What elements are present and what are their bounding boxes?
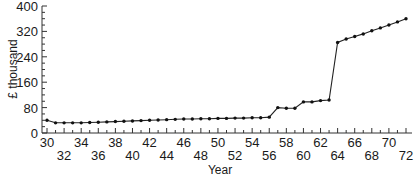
x-tick-label: 46 <box>177 135 191 150</box>
data-point <box>225 117 228 120</box>
data-point <box>344 37 347 40</box>
data-point <box>319 99 322 102</box>
data-point <box>302 100 305 103</box>
data-point <box>327 98 330 101</box>
data-point <box>174 118 177 121</box>
data-point <box>148 119 151 122</box>
data-point <box>353 35 356 38</box>
data-point <box>71 121 74 124</box>
x-tick-label: 38 <box>108 135 122 150</box>
data-point <box>139 119 142 122</box>
data-point <box>362 32 365 35</box>
x-tick-label: 30 <box>40 135 54 150</box>
x-tick-label: 58 <box>279 135 293 150</box>
data-point <box>88 121 91 124</box>
x-tick-label: 68 <box>365 148 379 163</box>
x-tick-label: 36 <box>91 148 105 163</box>
data-point <box>259 116 262 119</box>
data-point <box>285 107 288 110</box>
y-tick-label: 400 <box>16 0 38 14</box>
line-chart: 0801602403204003034384246505458626670323… <box>0 0 415 179</box>
x-tick-label: 66 <box>347 135 361 150</box>
data-point <box>242 116 245 119</box>
data-point <box>114 120 117 123</box>
data-point <box>396 20 399 23</box>
x-tick-label: 42 <box>142 135 156 150</box>
data-point <box>97 121 100 124</box>
data-point <box>131 119 134 122</box>
data-point <box>387 23 390 26</box>
data-line <box>47 19 406 123</box>
data-point <box>379 26 382 29</box>
data-point <box>216 117 219 120</box>
data-point <box>268 115 271 118</box>
x-tick-label: 44 <box>159 148 173 163</box>
x-tick-label: 40 <box>125 148 139 163</box>
data-point <box>199 117 202 120</box>
x-tick-label: 32 <box>57 148 71 163</box>
data-point <box>336 41 339 44</box>
data-point <box>208 117 211 120</box>
data-point <box>182 117 185 120</box>
x-tick-label: 60 <box>296 148 310 163</box>
x-tick-label: 52 <box>228 148 242 163</box>
data-point <box>45 119 48 122</box>
x-tick-label: 70 <box>382 135 396 150</box>
y-tick-label: 80 <box>24 101 38 116</box>
y-axis-label: £ thousand <box>6 34 20 104</box>
data-point <box>370 29 373 32</box>
data-point <box>293 107 296 110</box>
data-point <box>122 120 125 123</box>
x-tick-label: 54 <box>245 135 259 150</box>
data-point <box>276 106 279 109</box>
data-point <box>310 100 313 103</box>
x-tick-label: 72 <box>399 148 413 163</box>
data-point <box>233 116 236 119</box>
data-point <box>105 120 108 123</box>
data-point <box>165 118 168 121</box>
data-point <box>54 121 57 124</box>
x-axis-label: Year <box>208 163 232 177</box>
data-point <box>156 118 159 121</box>
data-point <box>404 17 407 20</box>
data-point <box>250 116 253 119</box>
x-tick-label: 56 <box>262 148 276 163</box>
x-tick-label: 34 <box>74 135 88 150</box>
x-tick-label: 48 <box>194 148 208 163</box>
x-tick-label: 50 <box>211 135 225 150</box>
data-point <box>191 117 194 120</box>
x-tick-label: 64 <box>330 148 344 163</box>
data-point <box>79 121 82 124</box>
data-point <box>62 121 65 124</box>
x-tick-label: 62 <box>313 135 327 150</box>
y-tick-label: 0 <box>31 126 38 141</box>
